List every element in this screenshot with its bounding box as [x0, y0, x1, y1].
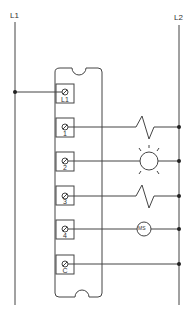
terminal-label-L1: L1 [56, 96, 74, 103]
lamp-icon [140, 152, 158, 170]
wiring-diagram [0, 0, 192, 312]
wire-1 [65, 116, 179, 139]
terminal-label-3: 3 [56, 198, 74, 205]
junction-dot [177, 227, 181, 231]
l2-rail-label: L2 [174, 14, 183, 22]
motor-starter-label: MS [138, 226, 146, 231]
junction-dot [177, 194, 181, 198]
terminal-label-C: C [56, 267, 74, 274]
terminal-label-4: 4 [56, 232, 74, 239]
junction-dot [177, 125, 181, 129]
terminal-label-2: 2 [56, 164, 74, 171]
junction-dot [177, 262, 181, 266]
l1-rail-label: L1 [10, 12, 19, 20]
junction-dot [13, 90, 17, 94]
terminal-label-1: 1 [56, 130, 74, 137]
junction-dot [177, 159, 181, 163]
screw-icon [62, 89, 68, 95]
wire-3 [65, 185, 179, 208]
